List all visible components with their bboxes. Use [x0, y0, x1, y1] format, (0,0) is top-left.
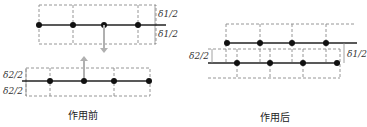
bottom-node-2	[81, 78, 87, 84]
bottom-node-1	[47, 78, 53, 84]
after-bottom-node-1	[234, 60, 240, 66]
label-delta1-upper: δ1/2	[158, 9, 178, 19]
top-node-2	[70, 22, 76, 28]
label-delta2-lower: δ2/2	[3, 86, 23, 96]
caption-before: 作用前	[68, 109, 98, 121]
after-bottom-node-2	[267, 60, 273, 66]
after-label-delta1: δ1/2	[347, 49, 367, 59]
up-arrow-icon	[80, 56, 88, 81]
bottom-chain-box	[26, 68, 150, 96]
label-delta2-upper: δ2/2	[3, 70, 23, 80]
after-label-delta2: δ2/2	[189, 51, 209, 61]
after-top-node-1	[224, 40, 230, 46]
down-arrow-icon	[100, 25, 108, 53]
after-top-node-3	[289, 40, 295, 46]
after-bottom-node-3	[300, 60, 306, 66]
bottom-node-4	[146, 78, 152, 84]
after-bottom-node-4	[334, 60, 340, 66]
top-node-4	[135, 22, 141, 28]
panel-after: δ2/2 δ1/2 作用后	[189, 24, 367, 123]
after-top-node-4	[323, 40, 329, 46]
panel-before: δ1/2 δ1/2 δ2/2 δ2/2 作用前	[3, 5, 178, 121]
after-top-node-2	[257, 40, 263, 46]
diagram-canvas: δ1/2 δ1/2 δ2/2 δ2/2 作用前	[0, 0, 367, 127]
caption-after: 作用后	[260, 112, 290, 123]
bottom-node-3	[111, 78, 117, 84]
top-node-1	[36, 22, 42, 28]
label-delta1-lower: δ1/2	[158, 29, 178, 39]
